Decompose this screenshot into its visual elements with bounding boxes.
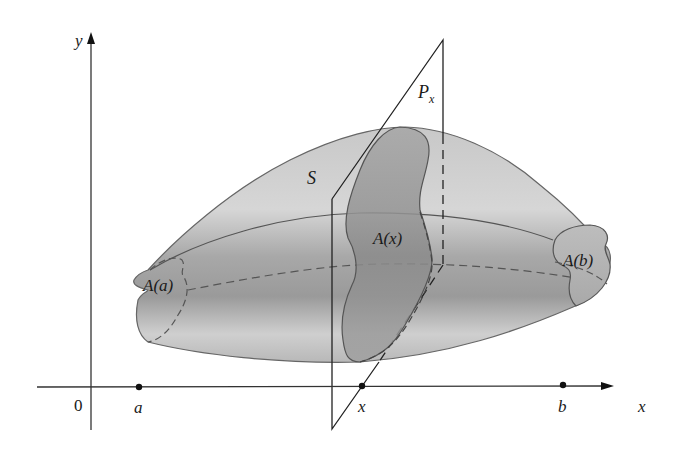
point-x xyxy=(359,383,365,389)
point-a xyxy=(136,384,142,390)
y-axis-arrow-icon xyxy=(87,32,95,44)
plane-subscript: x xyxy=(428,92,435,106)
solid-cross-section-diagram: y x 0 a x b S P x A(a) A(x) A(b) xyxy=(0,0,677,449)
a-label: a xyxy=(134,398,143,417)
area-a-label: A(a) xyxy=(142,276,174,295)
b-label: b xyxy=(558,397,567,416)
y-axis-label: y xyxy=(73,31,83,50)
origin-label: 0 xyxy=(74,396,83,415)
x-axis-label: x xyxy=(637,397,646,416)
area-b-label: A(b) xyxy=(562,251,594,270)
solid-label: S xyxy=(307,168,316,188)
x-point-label: x xyxy=(357,397,366,416)
point-b xyxy=(560,382,566,388)
plane-label: P xyxy=(417,82,429,102)
area-x-label: A(x) xyxy=(372,229,403,248)
x-axis xyxy=(37,386,605,387)
x-axis-arrow-icon xyxy=(601,382,614,390)
